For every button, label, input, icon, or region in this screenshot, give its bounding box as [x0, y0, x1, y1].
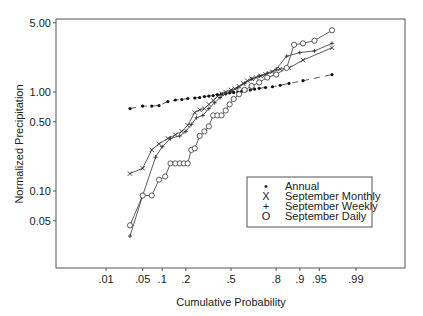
data-point	[163, 174, 168, 179]
data-point	[206, 124, 211, 129]
data-point	[141, 105, 144, 108]
data-point	[219, 113, 224, 118]
x-tick-label: .1	[158, 273, 167, 285]
y-axis: 5.001.000.500.100.05	[30, 17, 56, 227]
data-point	[212, 94, 215, 97]
data-point	[186, 97, 189, 100]
data-point	[287, 82, 290, 85]
data-point	[127, 223, 132, 228]
data-point	[193, 96, 196, 99]
y-axis-title: Normalized Precipitation	[13, 84, 25, 203]
data-point	[197, 133, 202, 138]
data-point	[265, 75, 270, 80]
y-tick-label: 0.05	[30, 215, 51, 227]
plot-frame	[56, 19, 405, 268]
x-tick-label: .01	[98, 273, 113, 285]
x-axis-title: Cumulative Probability	[176, 296, 286, 308]
legend-symbol-september-daily: O	[262, 210, 271, 222]
data-point	[223, 108, 228, 113]
data-point	[198, 96, 201, 99]
data-point	[291, 42, 296, 47]
y-tick-label: 1.00	[30, 86, 51, 98]
data-point	[227, 102, 232, 107]
data-point	[284, 65, 289, 70]
y-tick-label: 0.10	[30, 185, 51, 197]
data-point	[264, 86, 267, 89]
x-tick-label: .95	[312, 273, 327, 285]
x-tick-label: .99	[348, 273, 363, 285]
data-point	[257, 80, 262, 85]
legend: • Annual X September Monthly + September…	[247, 177, 381, 227]
data-point	[279, 84, 282, 87]
x-tick-label: .05	[135, 273, 150, 285]
data-point	[300, 41, 305, 46]
data-point	[157, 104, 160, 107]
data-point	[168, 161, 173, 166]
data-point	[174, 98, 177, 101]
x-tick-label: .5	[226, 273, 235, 285]
data-point	[329, 28, 334, 33]
y-tick-label: 5.00	[30, 17, 51, 29]
data-point	[140, 193, 145, 198]
data-point	[149, 193, 154, 198]
x-tick-label: .9	[295, 273, 304, 285]
data-point	[156, 177, 161, 182]
data-point	[258, 87, 261, 90]
legend-label-september-daily: September Daily	[285, 210, 367, 222]
data-point	[128, 107, 131, 110]
data-point	[312, 38, 317, 43]
data-point	[249, 83, 254, 88]
x-axis: .01.05.1.2.5.8.9.95.99	[98, 268, 363, 285]
y-tick-label: 0.50	[30, 116, 51, 128]
data-point	[207, 94, 210, 97]
data-point	[202, 129, 207, 134]
x-tick-label: .2	[181, 273, 190, 285]
data-point	[330, 73, 333, 76]
data-point	[150, 105, 153, 108]
data-point	[237, 92, 242, 97]
data-point	[185, 161, 190, 166]
data-point	[274, 72, 279, 77]
data-point	[271, 85, 274, 88]
data-point	[231, 96, 236, 101]
data-point	[242, 87, 247, 92]
data-point	[180, 98, 183, 101]
data-point	[203, 95, 206, 98]
probability-plot: 5.001.000.500.100.05 .01.05.1.2.5.8.9.95…	[0, 0, 423, 316]
data-point	[192, 146, 197, 151]
data-point	[301, 79, 304, 82]
data-point	[166, 100, 169, 103]
x-tick-label: .8	[272, 273, 281, 285]
